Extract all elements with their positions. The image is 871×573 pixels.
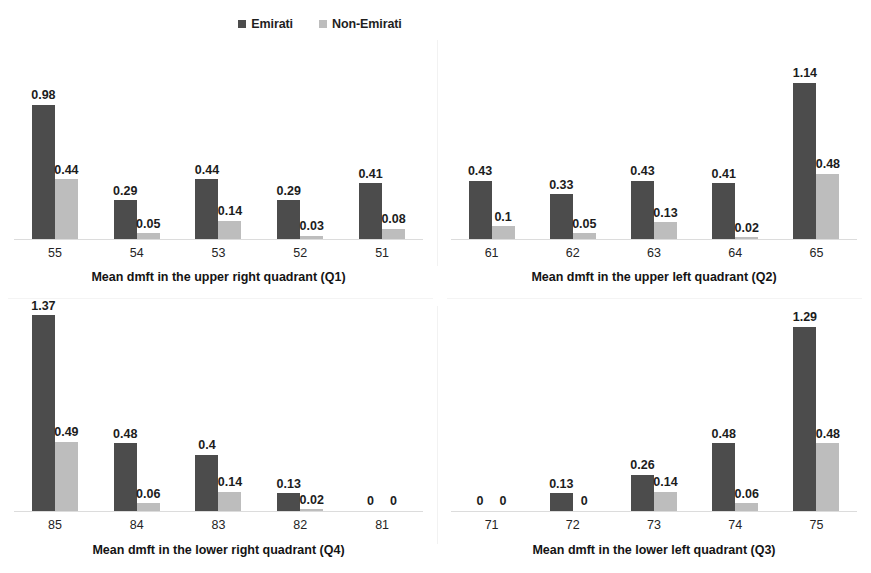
bar-nonemirati[interactable]: 0.06 [137, 304, 160, 512]
bar-nonemirati[interactable]: 0.06 [735, 304, 758, 512]
bar-nonemirati[interactable]: 0.48 [816, 40, 839, 240]
bar-rect[interactable] [654, 492, 677, 512]
bar-nonemirati[interactable]: 0.49 [55, 304, 78, 512]
bar-nonemirati[interactable]: 0.13 [654, 40, 677, 240]
bar-rect[interactable] [550, 194, 573, 240]
bar-rect[interactable] [55, 179, 78, 240]
bar-emirati[interactable]: 0.4 [195, 304, 218, 512]
bar-emirati[interactable]: 1.29 [793, 304, 816, 512]
bar-rect[interactable] [277, 493, 300, 512]
bar-pair: 0.130 [550, 304, 596, 512]
plot-area: 1.370.490.480.060.40.140.130.0200 [14, 304, 423, 512]
bar-nonemirati[interactable]: 0.05 [573, 40, 596, 240]
category-axis: 6162636465 [451, 246, 857, 260]
bar-value-label: 0.4 [198, 439, 215, 452]
bar-value-label: 0.02 [735, 222, 759, 235]
bar-value-label: 0.49 [54, 426, 78, 439]
bar-emirati[interactable]: 0.48 [712, 304, 735, 512]
bar-nonemirati[interactable]: 0.48 [816, 304, 839, 512]
bar-rect[interactable] [469, 181, 492, 240]
bar-value-label: 0.06 [136, 488, 160, 501]
plot-area: 0.430.10.330.050.430.130.410.021.140.48 [451, 40, 857, 240]
bar-pair: 0.130.02 [277, 304, 323, 512]
bar-rect[interactable] [816, 174, 839, 240]
bar-group: 0.290.05 [96, 40, 178, 240]
bar-emirati[interactable]: 0.41 [359, 40, 382, 240]
bar-rect[interactable] [195, 179, 218, 240]
bar-emirati[interactable]: 0.33 [550, 40, 573, 240]
bar-rect[interactable] [218, 492, 241, 512]
bar-rect[interactable] [793, 83, 816, 240]
bar-emirati[interactable]: 0.13 [277, 304, 300, 512]
bar-rect[interactable] [277, 200, 300, 240]
bar-group: 0.410.02 [695, 40, 776, 240]
bar-emirati[interactable]: 0.13 [550, 304, 573, 512]
bar-emirati[interactable]: 0.43 [469, 40, 492, 240]
bar-rect[interactable] [114, 200, 137, 240]
bar-rect[interactable] [32, 105, 55, 240]
bar-emirati[interactable]: 0.29 [277, 40, 300, 240]
bar-emirati[interactable]: 0.48 [114, 304, 137, 512]
bar-value-label: 0.14 [218, 476, 242, 489]
bar-value-label: 0.41 [712, 168, 736, 181]
bar-rect[interactable] [55, 442, 78, 512]
bar-nonemirati[interactable]: 0.05 [137, 40, 160, 240]
category-tick-label: 51 [341, 246, 423, 260]
bar-rect[interactable] [712, 443, 735, 512]
category-tick-label: 54 [96, 246, 178, 260]
bar-emirati[interactable]: 0 [359, 304, 382, 512]
bar-emirati[interactable]: 1.14 [793, 40, 816, 240]
bar-value-label: 0.33 [549, 179, 573, 192]
chart-panel-q3: 000.1300.260.140.480.061.290.48 71727374… [437, 298, 871, 573]
bar-rect[interactable] [631, 181, 654, 240]
bar-rect[interactable] [816, 443, 839, 512]
bar-rect[interactable] [492, 226, 515, 240]
bar-nonemirati[interactable]: 0.02 [300, 304, 323, 512]
bar-emirati[interactable]: 0.29 [114, 40, 137, 240]
bar-value-label: 0.08 [381, 213, 405, 226]
bar-nonemirati[interactable]: 0.08 [382, 40, 405, 240]
bar-rect[interactable] [712, 183, 735, 240]
chart-panel-q1: 0.980.440.290.050.440.140.290.030.410.08… [0, 34, 437, 298]
bar-value-label: 0.48 [712, 428, 736, 441]
bar-nonemirati[interactable]: 0 [492, 304, 515, 512]
bar-nonemirati[interactable]: 0.02 [735, 40, 758, 240]
bar-nonemirati[interactable]: 0.44 [55, 40, 78, 240]
bar-value-label: 0.02 [300, 494, 324, 507]
bar-value-label: 0 [367, 495, 374, 508]
category-axis: 8584838281 [14, 518, 423, 532]
bar-group: 0.480.06 [96, 304, 178, 512]
bar-nonemirati[interactable]: 0 [573, 304, 596, 512]
bar-group: 0.410.08 [341, 40, 423, 240]
bar-rect[interactable] [631, 475, 654, 512]
bar-nonemirati[interactable]: 0.14 [218, 304, 241, 512]
category-tick-label: 82 [259, 518, 341, 532]
bar-emirati[interactable]: 0.41 [712, 40, 735, 240]
bar-nonemirati[interactable]: 0 [382, 304, 405, 512]
bar-rect[interactable] [114, 443, 137, 512]
bar-group: 0.130 [532, 304, 613, 512]
bar-emirati[interactable]: 0.98 [32, 40, 55, 240]
bar-rect[interactable] [550, 493, 573, 512]
bar-nonemirati[interactable]: 0.03 [300, 40, 323, 240]
bar-rect[interactable] [359, 183, 382, 240]
bar-emirati[interactable]: 0 [469, 304, 492, 512]
bar-rect[interactable] [793, 327, 816, 512]
legend-label-emirati: Emirati [251, 17, 293, 31]
bar-value-label: 0 [477, 495, 484, 508]
bar-emirati[interactable]: 0.43 [631, 40, 654, 240]
bar-rect[interactable] [654, 222, 677, 240]
bar-rect[interactable] [32, 315, 55, 512]
bar-emirati[interactable]: 0.26 [631, 304, 654, 512]
bar-nonemirati[interactable]: 0.14 [654, 304, 677, 512]
bar-rect[interactable] [195, 455, 218, 512]
bar-pair: 00 [469, 304, 515, 512]
chart-panel-q4: 1.370.490.480.060.40.140.130.0200 858483… [0, 298, 437, 573]
bar-nonemirati[interactable]: 0.1 [492, 40, 515, 240]
bar-nonemirati[interactable]: 0.14 [218, 40, 241, 240]
bar-rect[interactable] [218, 221, 241, 240]
bar-emirati[interactable]: 1.37 [32, 304, 55, 512]
bar-pair: 1.290.48 [793, 304, 839, 512]
bar-value-label: 0.43 [468, 165, 492, 178]
bar-emirati[interactable]: 0.44 [195, 40, 218, 240]
